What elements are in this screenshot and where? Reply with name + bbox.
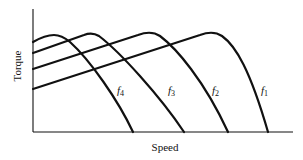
curve-f2: [33, 33, 228, 132]
y-axis-label: Torque: [11, 50, 23, 81]
label-f2: f2: [212, 84, 219, 98]
label-f4: f4: [117, 84, 124, 98]
x-axis-label: Speed: [152, 141, 179, 153]
curve-f1: [33, 33, 268, 132]
curve-labels: f4 f3 f2 f1: [117, 84, 268, 98]
axes: [33, 9, 293, 132]
torque-speed-chart: f4 f3 f2 f1 Speed Torque: [0, 0, 303, 160]
label-f3: f3: [168, 84, 175, 98]
curves: [33, 33, 268, 132]
label-f1: f1: [261, 84, 268, 98]
